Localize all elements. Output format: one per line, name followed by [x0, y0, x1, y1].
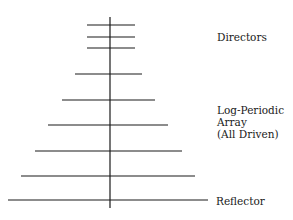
reflector-label: Reflector	[216, 195, 265, 207]
log-periodic-label-line1: Log-Periodic	[217, 104, 284, 116]
log-periodic-label-line2: Array	[217, 116, 247, 128]
log-periodic-label-line3: (All Driven)	[217, 128, 279, 140]
antenna-diagram: Directors Log-Periodic Array (All Driven…	[0, 0, 293, 220]
directors-label: Directors	[217, 31, 267, 43]
